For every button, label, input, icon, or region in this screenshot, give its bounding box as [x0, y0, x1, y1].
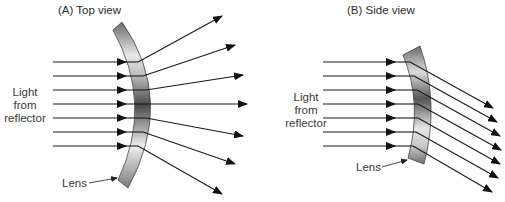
panel-a-lens-pointer: [89, 178, 117, 183]
label-reflector: reflector: [4, 112, 46, 124]
label-from: from: [14, 99, 37, 111]
label-light: Light: [294, 91, 320, 103]
panel-b-lens-pointer: [382, 160, 407, 167]
panel-b-source-label: Light from reflector: [285, 91, 327, 129]
lens-diagram: (A) Top view Light from reflector: [0, 0, 505, 202]
panel-a-source-label: Light from reflector: [4, 86, 46, 124]
panel-b-lens-label: Lens: [356, 161, 381, 173]
panel-b-title: (B) Side view: [347, 4, 415, 16]
panel-a-outgoing-rays: [138, 16, 247, 194]
label-reflector: reflector: [285, 117, 327, 129]
lens-a: [113, 22, 151, 188]
panel-b-incoming-rays: [323, 62, 418, 146]
label-from: from: [295, 104, 318, 116]
panel-a-lens-label: Lens: [62, 177, 87, 189]
panel-a-top-view: (A) Top view Light from reflector: [4, 4, 247, 194]
panel-b-side-view: (B) Side view Light from reflector: [285, 4, 501, 192]
panel-a-title: (A) Top view: [58, 4, 122, 16]
label-light: Light: [13, 86, 39, 98]
